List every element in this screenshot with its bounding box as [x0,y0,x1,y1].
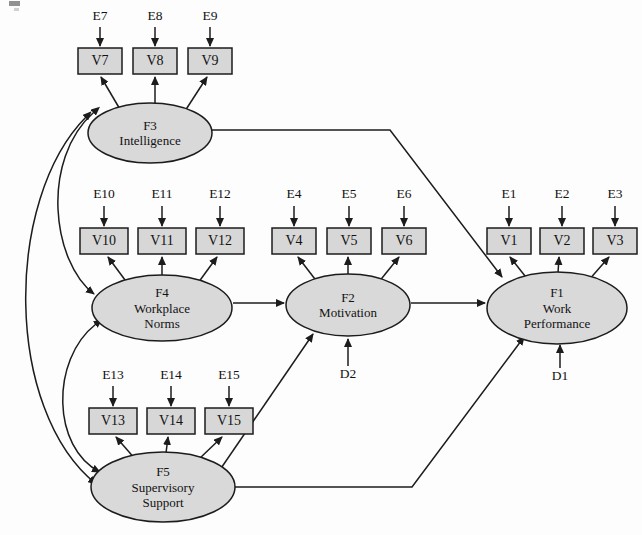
observed-indicator-v10[interactable]: V10 [80,228,128,254]
latent-factor-f2[interactable]: F2Motivation [286,274,410,336]
structural-path-f3-f1 [212,130,502,277]
scan-artifact-secondary [14,8,19,11]
observed-indicator-v8[interactable]: V8 [133,48,177,74]
indicator-label-v5: V5 [340,233,357,248]
loading-f3-to-v9 [185,77,207,111]
factor-label-f4-line1: F4 [155,285,169,300]
error-label-e11: E11 [151,186,172,201]
error-label-e5: E5 [342,186,357,201]
error-label-e3: E3 [608,186,623,201]
factor-label-f5-line2: Supervisory [132,480,195,495]
indicator-label-v6: V6 [395,233,412,248]
loading-f3-to-v7 [101,77,121,111]
error-label-e1: E1 [502,186,517,201]
disturbance-arrows-layer: D2D1 [340,339,569,383]
indicator-label-v3: V3 [606,233,623,248]
indicator-label-v10: V10 [92,233,116,248]
indicator-label-v9: V9 [201,53,218,68]
scan-artifact [9,1,20,6]
loading-f5-to-v14 [166,437,168,453]
error-label-e15: E15 [218,367,240,382]
error-label-e4: E4 [287,186,302,201]
observed-indicator-v12[interactable]: V12 [196,228,244,254]
structural-path-f5-f1 [233,337,524,487]
error-label-e12: E12 [209,186,231,201]
observed-indicator-v7[interactable]: V7 [78,48,122,74]
observed-indicator-v14[interactable]: V14 [147,408,195,434]
factor-label-f1-line2: Work [543,301,572,316]
indicator-label-v11: V11 [150,233,174,248]
disturbance-label-d2: D2 [340,366,357,381]
indicator-label-v2: V2 [553,233,570,248]
factor-label-f5-line3: Support [142,495,184,510]
factor-label-f2-line2: Motivation [319,305,377,320]
error-label-e9: E9 [203,8,218,23]
factor-label-f4-line2: Workplace [134,301,190,316]
factor-label-f2-line1: F2 [341,290,355,305]
observed-indicator-v15[interactable]: V15 [205,408,253,434]
latent-factors-layer: F3IntelligenceF4WorkplaceNormsF2Motivati… [88,103,627,522]
factor-label-f1-line3: Performance [524,316,591,331]
factor-label-f1-line1: F1 [550,285,564,300]
factor-label-f5-line1: F5 [156,464,170,479]
error-label-e14: E14 [160,367,182,382]
error-label-e2: E2 [555,186,570,201]
indicator-label-v14: V14 [159,413,183,428]
error-label-e13: E13 [102,367,124,382]
indicator-label-v4: V4 [285,233,302,248]
indicator-label-v7: V7 [91,53,108,68]
observed-indicator-v9[interactable]: V9 [188,48,232,74]
indicator-label-v8: V8 [146,53,163,68]
covariance-path-f4-f5 [63,324,100,472]
observed-indicator-v1[interactable]: V1 [487,228,531,254]
latent-factor-f1[interactable]: F1WorkPerformance [487,272,627,344]
error-arrows-layer [100,27,615,406]
loading-f5-to-v15 [199,437,222,459]
loading-f4-to-v12 [198,257,217,283]
sem-path-diagram: D2D1 F3IntelligenceF4WorkplaceNormsF2Mot… [0,0,642,535]
observed-indicator-v3[interactable]: V3 [593,228,637,254]
factor-label-f3-line1: F3 [143,118,157,133]
observed-indicator-v5[interactable]: V5 [327,228,371,254]
diagram-canvas: D2D1 F3IntelligenceF4WorkplaceNormsF2Mot… [0,0,642,535]
latent-factor-f5[interactable]: F5SupervisorySupport [91,452,235,522]
indicator-label-v15: V15 [217,413,241,428]
error-label-e6: E6 [397,186,412,201]
indicator-label-v12: V12 [208,233,232,248]
disturbance-label-d1: D1 [552,368,569,383]
error-label-e7: E7 [93,8,108,23]
factor-label-f3-line2: Intelligence [119,133,181,148]
observed-indicator-v13[interactable]: V13 [89,408,137,434]
observed-indicator-v6[interactable]: V6 [382,228,426,254]
observed-indicator-v11[interactable]: V11 [138,228,186,254]
factor-label-f4-line3: Norms [144,316,179,331]
error-label-e8: E8 [148,8,163,23]
indicator-label-v13: V13 [101,413,125,428]
loading-f1-to-v2 [558,257,559,273]
error-label-e10: E10 [93,186,115,201]
observed-indicator-v2[interactable]: V2 [540,228,584,254]
latent-factor-f4[interactable]: F4WorkplaceNorms [92,275,232,341]
latent-factor-f3[interactable]: F3Intelligence [88,103,212,163]
indicator-label-v1: V1 [500,233,517,248]
observed-indicator-v4[interactable]: V4 [272,228,316,254]
